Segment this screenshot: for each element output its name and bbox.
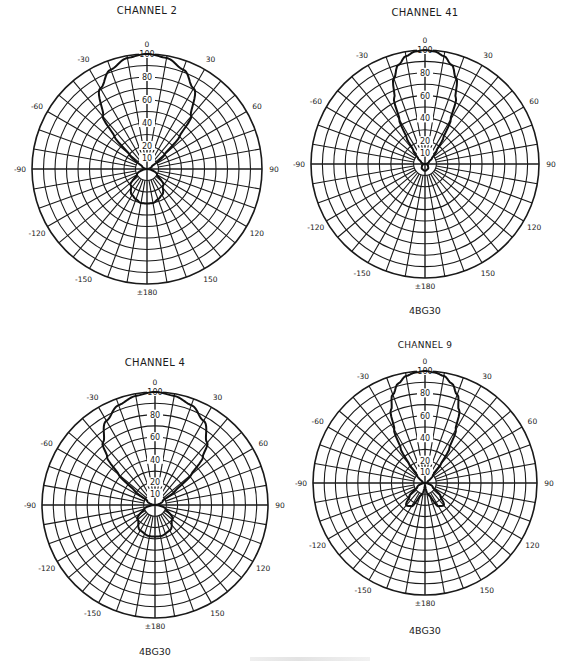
angle-tick-label: -150 xyxy=(354,586,371,595)
radial-tick-label: 10 xyxy=(420,468,430,477)
radial-tick-label: 20 xyxy=(150,478,160,487)
angle-tick-label: 90 xyxy=(546,160,556,169)
grid-spoke xyxy=(127,180,145,282)
angle-tick-label: 90 xyxy=(275,501,285,510)
angle-tick-label: -60 xyxy=(311,417,323,426)
chart-title: CHANNEL 41 xyxy=(391,7,458,18)
grid-spoke xyxy=(313,166,414,184)
angle-tick-label: -150 xyxy=(84,609,101,618)
radial-tick-label: 40 xyxy=(420,114,430,123)
antenna-model-label: 4BG30 xyxy=(409,305,441,316)
radial-tick-label: 40 xyxy=(150,456,160,465)
angle-tick-label: -120 xyxy=(38,564,55,573)
radial-tick-label: 20 xyxy=(420,137,430,146)
polar-chart-channel-4: 0306090120150±180-150-120-90-60-30102040… xyxy=(24,357,285,657)
grid-spoke xyxy=(34,171,136,189)
angle-tick-label: 120 xyxy=(256,564,271,573)
angle-tick-label: 0 xyxy=(145,40,150,49)
angle-tick-label: ±180 xyxy=(145,622,166,631)
angle-tick-label: -120 xyxy=(307,223,324,232)
angle-tick-label: 60 xyxy=(529,97,539,106)
grid-spoke xyxy=(436,464,535,482)
angle-tick-label: -90 xyxy=(293,160,305,169)
radial-tick-label: 20 xyxy=(142,142,152,151)
radial-tick-label: 60 xyxy=(420,92,430,101)
angle-tick-label: -30 xyxy=(86,393,98,402)
radial-tick-label: 80 xyxy=(420,69,430,78)
grid-spoke xyxy=(427,175,445,276)
grid-spoke xyxy=(166,507,266,525)
angle-tick-label: 120 xyxy=(525,541,540,550)
angle-tick-label: 0 xyxy=(153,378,158,387)
angle-tick-label: -150 xyxy=(75,275,92,284)
angle-tick-label: 150 xyxy=(210,609,225,618)
radial-tick-label: 80 xyxy=(150,411,160,420)
angle-tick-label: -90 xyxy=(14,165,26,174)
angle-tick-label: ±180 xyxy=(137,288,158,297)
angle-tick-label: 30 xyxy=(482,372,492,381)
radial-tick-label: 60 xyxy=(150,433,160,442)
polar-chart-channel-2: 0306090120150±180-150-120-90-60-30102040… xyxy=(14,5,279,297)
grid-spoke xyxy=(158,171,260,189)
angle-tick-label: -90 xyxy=(24,501,36,510)
chart-title: CHANNEL 4 xyxy=(125,357,185,368)
radial-tick-label: 10 xyxy=(420,149,430,158)
grid-spoke xyxy=(405,175,423,276)
grid-spoke xyxy=(135,516,153,616)
chart-title: CHANNEL 9 xyxy=(398,340,453,350)
grid-spoke xyxy=(427,494,445,593)
radial-tick-label: 60 xyxy=(420,412,430,421)
grid-spoke xyxy=(436,485,535,503)
polar-chart-channel-41: 0306090120150±180-150-120-90-60-30102040… xyxy=(293,7,556,316)
angle-tick-label: -60 xyxy=(41,439,53,448)
angle-tick-label: -60 xyxy=(310,97,322,106)
angle-tick-label: 150 xyxy=(480,586,495,595)
grid-spoke xyxy=(44,507,144,525)
angle-tick-label: 60 xyxy=(528,417,538,426)
grid-spoke xyxy=(315,464,414,482)
polar-chart-channel-9: 0306090120150±180-150-120-90-60-30102040… xyxy=(295,340,554,636)
radial-tick-label: 40 xyxy=(420,434,430,443)
angle-tick-label: 90 xyxy=(544,479,554,488)
angle-tick-label: 150 xyxy=(481,269,496,278)
angle-tick-label: 60 xyxy=(252,102,262,111)
grid-spoke xyxy=(166,485,266,503)
radial-tick-label: 10 xyxy=(142,154,152,163)
grid-spoke xyxy=(315,485,414,503)
angle-tick-label: ±180 xyxy=(415,282,436,291)
radial-tick-label: 10 xyxy=(150,490,160,499)
angle-tick-label: ±180 xyxy=(415,599,436,608)
angle-tick-label: -30 xyxy=(77,55,89,64)
angle-tick-label: -120 xyxy=(309,541,326,550)
angle-tick-label: -150 xyxy=(353,269,370,278)
grid-spoke xyxy=(34,149,136,167)
radial-tick-label: 20 xyxy=(420,457,430,466)
grid-spoke xyxy=(149,180,167,282)
chart-title: CHANNEL 2 xyxy=(117,5,177,16)
angle-tick-label: 150 xyxy=(203,275,218,284)
grid-spoke xyxy=(436,166,537,184)
radial-tick-label: 60 xyxy=(142,96,152,105)
angle-tick-label: 120 xyxy=(527,223,542,232)
angle-tick-label: 90 xyxy=(269,165,279,174)
angle-tick-label: -90 xyxy=(295,479,307,488)
angle-tick-label: 30 xyxy=(206,55,216,64)
angle-tick-label: -30 xyxy=(356,51,368,60)
grid-spoke xyxy=(406,494,424,593)
radial-tick-label: 80 xyxy=(420,389,430,398)
scan-artifact xyxy=(250,657,370,661)
grid-spoke xyxy=(436,144,537,162)
angle-tick-label: -60 xyxy=(31,102,43,111)
radial-tick-label: 80 xyxy=(142,73,152,82)
polar-pattern-figure: 0306090120150±180-150-120-90-60-30102040… xyxy=(0,0,565,663)
angle-tick-label: -30 xyxy=(357,372,369,381)
angle-tick-label: 60 xyxy=(258,439,268,448)
angle-tick-label: 30 xyxy=(213,393,223,402)
grid-spoke xyxy=(157,516,175,616)
grid-spoke xyxy=(44,485,144,503)
angle-tick-label: 30 xyxy=(483,51,493,60)
angle-tick-label: -120 xyxy=(28,229,45,238)
angle-tick-label: 0 xyxy=(423,36,428,45)
grid-spoke xyxy=(158,149,260,167)
angle-tick-label: 120 xyxy=(250,229,265,238)
